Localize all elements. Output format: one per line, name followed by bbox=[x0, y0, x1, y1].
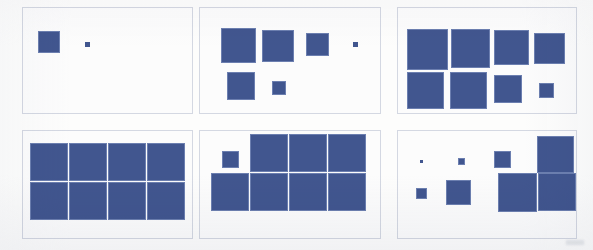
square-marker bbox=[69, 182, 107, 220]
scan-smudge bbox=[566, 240, 584, 245]
panel-bottom-left bbox=[22, 130, 193, 239]
panel-plot-area bbox=[398, 8, 576, 113]
square-marker bbox=[108, 182, 146, 220]
square-marker bbox=[539, 83, 554, 98]
square-marker bbox=[458, 158, 465, 165]
square-marker bbox=[353, 42, 358, 47]
square-marker bbox=[420, 160, 423, 163]
panel-top-right bbox=[397, 7, 577, 114]
square-marker bbox=[147, 143, 185, 181]
panel-top-center bbox=[199, 7, 381, 114]
square-marker bbox=[250, 173, 288, 211]
square-marker bbox=[306, 33, 329, 56]
square-marker bbox=[407, 72, 444, 109]
square-marker bbox=[211, 173, 249, 211]
square-marker bbox=[30, 182, 68, 220]
square-marker bbox=[498, 173, 537, 212]
square-marker bbox=[451, 29, 490, 68]
square-marker bbox=[85, 42, 90, 47]
square-marker bbox=[147, 182, 185, 220]
square-marker bbox=[407, 29, 448, 70]
square-marker bbox=[450, 72, 487, 109]
panel-plot-area bbox=[200, 131, 380, 238]
square-marker bbox=[494, 75, 522, 103]
square-marker bbox=[250, 134, 288, 172]
square-marker bbox=[30, 143, 68, 181]
square-marker bbox=[537, 136, 574, 173]
square-marker bbox=[262, 30, 294, 62]
square-marker bbox=[328, 173, 366, 211]
square-marker bbox=[289, 173, 327, 211]
square-marker bbox=[538, 173, 576, 211]
square-marker bbox=[222, 151, 239, 168]
square-marker bbox=[328, 134, 366, 172]
square-marker bbox=[289, 134, 327, 172]
panel-top-left bbox=[22, 7, 193, 114]
square-marker bbox=[534, 33, 565, 64]
square-marker bbox=[221, 28, 256, 63]
panel-plot-area bbox=[23, 131, 192, 238]
panel-bottom-center bbox=[199, 130, 381, 239]
square-marker bbox=[38, 31, 60, 53]
square-marker bbox=[416, 188, 427, 199]
square-marker bbox=[108, 143, 146, 181]
square-marker bbox=[446, 180, 471, 205]
panel-plot-area bbox=[200, 8, 380, 113]
panel-bottom-right bbox=[397, 130, 577, 239]
square-marker bbox=[494, 151, 511, 168]
square-marker bbox=[272, 81, 286, 95]
square-marker bbox=[69, 143, 107, 181]
panel-plot-area bbox=[398, 131, 576, 238]
square-marker bbox=[494, 30, 529, 65]
square-marker bbox=[227, 72, 255, 100]
square-size-distribution-figure bbox=[0, 0, 593, 250]
panel-plot-area bbox=[23, 8, 192, 113]
